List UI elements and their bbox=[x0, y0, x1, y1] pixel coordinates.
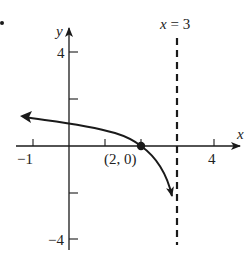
bullet-dot bbox=[0, 21, 4, 25]
x-tick-label-neg1: −1 bbox=[17, 151, 33, 167]
x-tick-label-4: 4 bbox=[208, 151, 216, 167]
point-label: (2, 0) bbox=[104, 151, 137, 168]
y-tick-label-4: 4 bbox=[57, 45, 65, 61]
asymptote-label: x = 3 bbox=[159, 16, 190, 32]
x-axis-label: x bbox=[236, 126, 244, 142]
point-2-0 bbox=[137, 142, 145, 150]
function-curve bbox=[24, 117, 172, 196]
y-tick-label-neg4: −4 bbox=[48, 232, 64, 248]
y-axis-label: y bbox=[54, 23, 63, 39]
x-ticks bbox=[33, 139, 214, 146]
function-graph: y x 4 −4 −1 4 x = 3 (2, 0) bbox=[0, 0, 252, 264]
